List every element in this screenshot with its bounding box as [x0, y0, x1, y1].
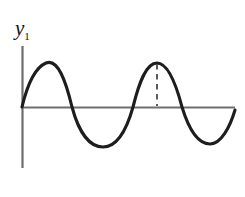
y-axis-label: y1 [15, 18, 30, 42]
y-axis-label-subscript: 1 [24, 30, 30, 42]
figure-canvas [0, 0, 245, 197]
figure-background [0, 0, 245, 197]
sine-wave-figure: y1 [0, 0, 245, 197]
y-axis-label-symbol: y [15, 16, 24, 40]
